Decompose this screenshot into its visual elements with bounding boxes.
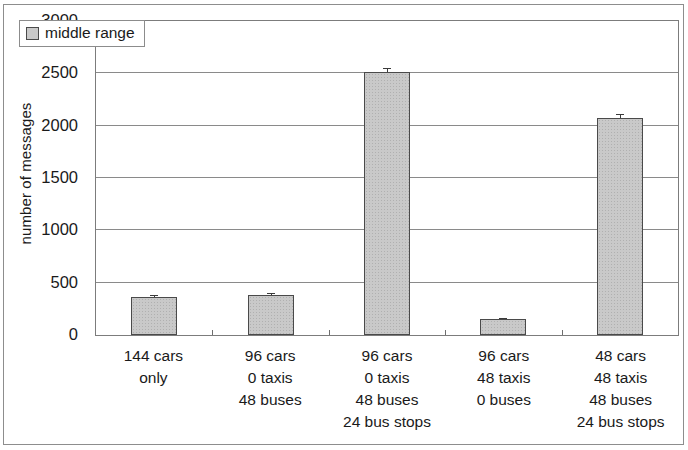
error-bar-cap-4 — [499, 318, 507, 319]
y-axis-tick-label: 500 — [0, 274, 78, 291]
x-axis-category-1: 144 carsonly — [95, 345, 212, 445]
plot-area: 050010001500200025003000 — [95, 20, 679, 336]
x-axis-category-5-line-3: 48 buses — [562, 389, 679, 411]
x-axis-category-1-line-2: only — [95, 367, 212, 389]
x-axis-category-3-line-3: 48 buses — [329, 389, 446, 411]
error-bar-cap-2 — [267, 293, 275, 294]
x-axis-tick — [212, 330, 213, 335]
x-axis-category-4-line-3: 0 buses — [445, 389, 562, 411]
x-axis-category-2-line-2: 0 taxis — [212, 367, 329, 389]
x-axis-category-3-line-2: 0 taxis — [329, 367, 446, 389]
y-axis-tick-label: 1500 — [0, 169, 78, 186]
bar-3 — [364, 72, 410, 335]
bar-5 — [597, 118, 643, 335]
x-axis-tick — [445, 330, 446, 335]
bar-4 — [480, 319, 526, 335]
chart-frame: number of messages 050010001500200025003… — [3, 4, 684, 445]
x-axis-category-1-line-1: 144 cars — [95, 345, 212, 367]
x-axis-category-3-line-4: 24 bus stops — [329, 411, 446, 433]
y-axis-tick-label: 0 — [0, 326, 78, 343]
x-axis-category-2-line-3: 48 buses — [212, 389, 329, 411]
chart-legend: middle range — [19, 20, 145, 47]
y-axis-tick-label: 2000 — [0, 117, 78, 134]
error-bar-cap-5 — [616, 114, 624, 115]
error-bar-cap-1 — [150, 295, 158, 296]
x-axis-category-5-line-1: 48 cars — [562, 345, 679, 367]
x-axis-tick — [329, 330, 330, 335]
x-axis-category-3: 96 cars0 taxis48 buses24 bus stops — [329, 345, 446, 445]
x-axis-tick — [562, 330, 563, 335]
x-axis-category-3-line-1: 96 cars — [329, 345, 446, 367]
x-axis-category-5-line-2: 48 taxis — [562, 367, 679, 389]
legend-label-middle-range: middle range — [45, 24, 135, 42]
x-axis-category-4-line-1: 96 cars — [445, 345, 562, 367]
x-axis-category-2-line-1: 96 cars — [212, 345, 329, 367]
y-axis-tick-label: 1000 — [0, 221, 78, 238]
x-axis-category-4: 96 cars48 taxis0 buses — [445, 345, 562, 445]
error-bar-cap-3 — [383, 68, 391, 69]
bar-1 — [131, 297, 177, 335]
x-axis-category-5-line-4: 24 bus stops — [562, 411, 679, 433]
x-axis-category-5: 48 cars48 taxis48 buses24 bus stops — [562, 345, 679, 445]
x-axis-category-4-line-2: 48 taxis — [445, 367, 562, 389]
x-axis-category-2: 96 cars0 taxis48 buses — [212, 345, 329, 445]
x-axis-category-labels: 144 carsonly96 cars0 taxis48 buses96 car… — [95, 345, 679, 445]
y-axis-tick-label: 2500 — [0, 64, 78, 81]
legend-swatch-middle-range — [26, 27, 39, 40]
bar-2 — [248, 295, 294, 335]
